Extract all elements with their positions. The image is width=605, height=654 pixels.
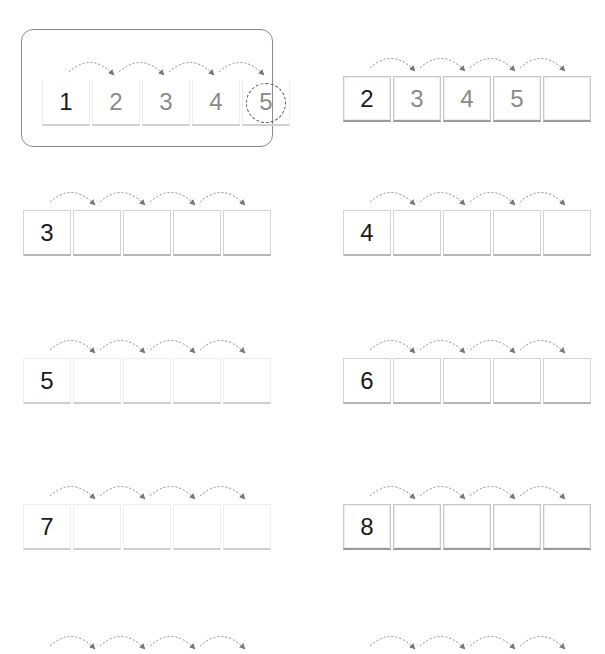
answer-cell[interactable] — [493, 210, 541, 256]
answer-cell[interactable]: 4 — [443, 76, 491, 122]
start-number-cell: 5 — [23, 358, 71, 404]
arrow-arcs-icon — [42, 50, 302, 80]
arrow-arcs-icon — [343, 474, 603, 504]
start-number-cell: 2 — [343, 76, 391, 122]
answer-cell[interactable] — [223, 358, 271, 404]
start-number-cell: 4 — [343, 210, 391, 256]
answer-cell[interactable] — [123, 504, 171, 550]
arrow-arcs-icon — [343, 624, 603, 654]
answer-cell[interactable] — [443, 358, 491, 404]
start-number-cell: 7 — [23, 504, 71, 550]
arrow-arcs-icon — [23, 180, 283, 210]
answer-cell[interactable] — [73, 504, 121, 550]
arrow-arcs-icon — [343, 46, 603, 76]
answer-cell[interactable] — [73, 210, 121, 256]
answer-cell[interactable] — [493, 358, 541, 404]
answer-cell[interactable] — [393, 504, 441, 550]
arrow-arcs-icon — [23, 328, 283, 358]
start-number-cell: 8 — [343, 504, 391, 550]
answer-cell[interactable] — [443, 504, 491, 550]
answer-cell[interactable] — [493, 504, 541, 550]
answer-cell[interactable] — [73, 358, 121, 404]
start-number-cell: 6 — [343, 358, 391, 404]
answer-cell[interactable] — [543, 76, 591, 122]
answer-cell[interactable] — [123, 358, 171, 404]
answer-cell[interactable]: 3 — [393, 76, 441, 122]
arrow-arcs-icon — [23, 624, 283, 654]
arrow-arcs-icon — [343, 328, 603, 358]
answer-cell[interactable]: 3 — [142, 80, 190, 126]
answer-cell[interactable] — [173, 504, 221, 550]
start-number-cell: 1 — [42, 80, 90, 126]
answer-cell[interactable] — [223, 210, 271, 256]
answer-cell[interactable] — [393, 358, 441, 404]
answer-cell[interactable] — [443, 210, 491, 256]
answer-cell[interactable]: 5 — [493, 76, 541, 122]
arrow-arcs-icon — [23, 474, 283, 504]
answer-cell[interactable] — [173, 210, 221, 256]
answer-cell[interactable]: 4 — [192, 80, 240, 126]
answer-cell[interactable]: 2 — [92, 80, 140, 126]
answer-cell[interactable] — [393, 210, 441, 256]
answer-cell[interactable] — [123, 210, 171, 256]
answer-circle-icon — [246, 83, 286, 123]
answer-cell[interactable] — [543, 358, 591, 404]
answer-cell[interactable] — [543, 210, 591, 256]
answer-cell[interactable] — [543, 504, 591, 550]
arrow-arcs-icon — [343, 180, 603, 210]
start-number-cell: 3 — [23, 210, 71, 256]
answer-cell[interactable] — [173, 358, 221, 404]
answer-cell[interactable] — [223, 504, 271, 550]
